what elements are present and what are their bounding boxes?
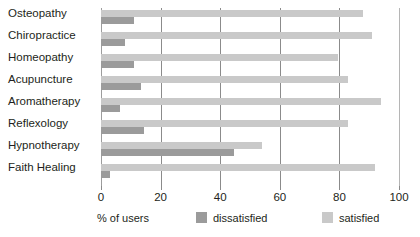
x-tick-label: 20 — [154, 191, 167, 204]
bar-dissatisfied — [101, 39, 125, 46]
x-tick-mark — [399, 186, 400, 190]
x-tick-mark — [161, 186, 162, 190]
bar-satisfied — [101, 142, 262, 149]
bar-dissatisfied — [101, 105, 120, 112]
bar-dissatisfied — [101, 17, 134, 24]
bar-group — [101, 164, 399, 178]
bar-dissatisfied — [101, 171, 110, 178]
x-tick-label: 80 — [333, 191, 346, 204]
bar-group — [101, 76, 399, 90]
bar-chart: Osteopathy Chiropractice Homeopathy Acup… — [0, 0, 420, 237]
category-label: Chiropractice — [0, 29, 90, 41]
bar-dissatisfied — [101, 61, 134, 68]
bar-group — [101, 32, 399, 46]
bar-satisfied — [101, 98, 381, 105]
bar-dissatisfied — [101, 149, 234, 156]
x-tick-label: 100 — [389, 191, 408, 204]
bar-satisfied — [101, 10, 363, 17]
bar-group — [101, 142, 399, 156]
category-label: Acupuncture — [0, 73, 90, 85]
bar-group — [101, 54, 399, 68]
x-tick-label: 40 — [214, 191, 227, 204]
x-tick-mark — [101, 186, 102, 190]
x-tick-label: 0 — [98, 191, 104, 204]
bar-satisfied — [101, 32, 372, 39]
bar-dissatisfied — [101, 127, 144, 134]
category-label: Faith Healing — [0, 161, 90, 173]
bar-satisfied — [101, 54, 338, 61]
category-label: Homeopathy — [0, 51, 90, 63]
legend-swatch-satisfied — [322, 212, 333, 223]
bar-satisfied — [101, 76, 348, 83]
legend-label-satisfied: satisfied — [339, 212, 379, 225]
plot-area — [101, 8, 399, 186]
category-label: Osteopathy — [0, 7, 90, 19]
x-axis: 020406080100 — [101, 186, 399, 208]
gridline — [399, 8, 400, 186]
legend-swatch-dissatisfied — [196, 212, 207, 223]
bar-group — [101, 98, 399, 112]
bar-group — [101, 120, 399, 134]
x-tick-mark — [339, 186, 340, 190]
chart-legend: % of users dissatisfied satisfied — [0, 210, 420, 230]
legend-label-dissatisfied: dissatisfied — [213, 212, 267, 225]
bar-group — [101, 10, 399, 24]
bar-dissatisfied — [101, 83, 141, 90]
bar-satisfied — [101, 164, 375, 171]
x-axis-title: % of users — [97, 212, 149, 225]
x-tick-label: 60 — [273, 191, 286, 204]
category-label: Reflexology — [0, 117, 90, 129]
bar-satisfied — [101, 120, 348, 127]
category-label: Hypnotherapy — [0, 139, 90, 151]
category-label: Aromatherapy — [0, 95, 90, 107]
x-tick-mark — [280, 186, 281, 190]
category-axis: Osteopathy Chiropractice Homeopathy Acup… — [0, 0, 97, 190]
x-tick-mark — [220, 186, 221, 190]
